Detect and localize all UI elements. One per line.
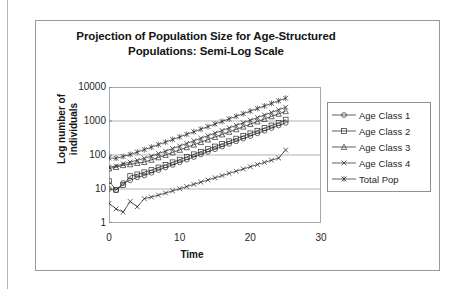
legend-label: Age Class 3 bbox=[357, 142, 410, 153]
legend-label: Total Pop bbox=[357, 174, 399, 185]
page-edge-rule bbox=[7, 0, 8, 289]
circle-marker-icon bbox=[331, 108, 357, 122]
chart-object-frame: Projection of Population Size for Age-St… bbox=[35, 20, 440, 271]
x-axis-title: Time bbox=[72, 249, 312, 260]
chart-legend: Age Class 1Age Class 2Age Class 3Age Cla… bbox=[327, 102, 431, 192]
x-tick-label: 30 bbox=[306, 232, 336, 243]
cross-marker-icon bbox=[331, 156, 357, 170]
legend-label: Age Class 1 bbox=[357, 110, 410, 121]
legend-item-4: Age Class 4 bbox=[331, 155, 427, 171]
chart-title-line-2: Populations: Semi-Log Scale bbox=[128, 45, 284, 57]
legend-label: Age Class 4 bbox=[357, 158, 410, 169]
legend-item-1: Age Class 1 bbox=[331, 107, 427, 123]
legend-item-2: Age Class 2 bbox=[331, 123, 427, 139]
y-tick-label: 100 bbox=[58, 150, 106, 160]
square-marker-icon bbox=[331, 124, 357, 138]
plot-region bbox=[109, 87, 321, 223]
chart-title: Projection of Population Size for Age-St… bbox=[56, 29, 356, 59]
x-tick-label: 10 bbox=[165, 232, 195, 243]
legend-item-5: Total Pop bbox=[331, 171, 427, 187]
series-4 bbox=[109, 105, 288, 170]
y-tick-label: 1 bbox=[58, 218, 106, 228]
series-canvas bbox=[109, 87, 321, 223]
y-axis-tick-labels: 110100100010000 bbox=[54, 87, 106, 227]
y-tick-label: 10000 bbox=[58, 82, 106, 92]
star-marker-icon bbox=[331, 172, 357, 186]
triangle-marker-icon bbox=[331, 140, 357, 154]
legend-label: Age Class 2 bbox=[357, 126, 410, 137]
series-6 bbox=[109, 148, 288, 215]
y-tick-label: 10 bbox=[58, 184, 106, 194]
chart-title-line-1: Projection of Population Size for Age-St… bbox=[76, 30, 335, 42]
x-tick-label: 0 bbox=[94, 232, 124, 243]
x-axis-tick-labels: 0102030 bbox=[109, 229, 369, 243]
x-tick-label: 20 bbox=[235, 232, 265, 243]
y-tick-label: 1000 bbox=[58, 116, 106, 126]
legend-item-3: Age Class 3 bbox=[331, 139, 427, 155]
